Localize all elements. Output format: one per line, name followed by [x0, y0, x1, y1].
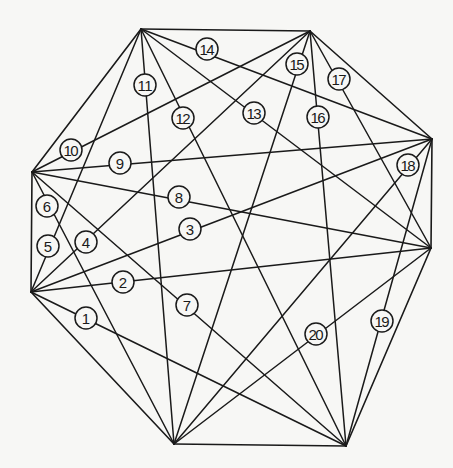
label-number: 7 [183, 297, 191, 314]
diagonal-label-14: 14 [196, 38, 218, 60]
label-number: 8 [175, 189, 183, 206]
diagonal-label-20: 20 [305, 323, 327, 345]
diagonal-label-10: 10 [60, 139, 82, 161]
diagonal-label-4: 4 [75, 231, 97, 253]
diagonal-line-17 [310, 31, 431, 248]
polygon-edge-CD [431, 139, 432, 248]
diagonal-line-20 [174, 248, 431, 444]
label-number: 15 [290, 56, 305, 73]
label-number: 11 [138, 77, 153, 94]
diagonal-line-18 [174, 139, 432, 444]
label-number: 20 [309, 326, 324, 343]
label-number: 3 [186, 221, 194, 238]
label-number: 1 [82, 310, 90, 327]
diagonal-label-7: 7 [176, 294, 198, 316]
label-number: 9 [116, 155, 124, 172]
diagonal-label-9: 9 [109, 152, 131, 174]
diagonal-label-8: 8 [168, 186, 190, 208]
octagon-diagonals-diagram: 1234567891011121314151617181920 [0, 0, 453, 468]
diagonal-label-19: 19 [371, 310, 393, 332]
label-number: 17 [332, 71, 347, 88]
diagonal-label-13: 13 [243, 102, 265, 124]
diagonal-label-3: 3 [179, 218, 201, 240]
diagonal-labels: 1234567891011121314151617181920 [36, 38, 419, 345]
diagonal-label-6: 6 [36, 195, 58, 217]
polygon-edge-BC [310, 31, 432, 139]
label-number: 6 [43, 198, 51, 215]
label-number: 14 [200, 41, 215, 58]
label-number: 19 [375, 313, 390, 330]
label-number: 12 [176, 110, 191, 127]
polygon-edge-AB [141, 29, 310, 31]
label-number: 10 [64, 142, 79, 159]
polygon-edge-EF [174, 444, 346, 446]
diagonal-label-15: 15 [286, 53, 308, 75]
diagonal-label-2: 2 [112, 271, 134, 293]
label-number: 18 [401, 157, 416, 174]
polygon-edge-GH [31, 172, 32, 292]
diagonal-label-1: 1 [75, 307, 97, 329]
diagonal-label-12: 12 [172, 107, 194, 129]
diagonal-label-17: 17 [328, 68, 350, 90]
label-number: 2 [119, 274, 127, 291]
diagonal-label-18: 18 [397, 154, 419, 176]
label-number: 4 [82, 234, 90, 251]
label-number: 5 [44, 238, 52, 255]
label-number: 16 [311, 109, 326, 126]
diagonal-line-9 [32, 139, 432, 172]
polygon-edge-DE [346, 248, 431, 446]
polygon-edge-FG [31, 292, 174, 444]
diagonal-label-5: 5 [37, 235, 59, 257]
diagonal-label-16: 16 [307, 106, 329, 128]
diagonal-label-11: 11 [134, 74, 156, 96]
polygon-edge-HA [32, 29, 141, 172]
label-number: 13 [247, 105, 262, 122]
diagonal-line-19 [346, 139, 432, 446]
